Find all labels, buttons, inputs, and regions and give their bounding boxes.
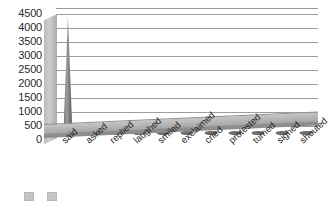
y-axis-tick-label: 0 bbox=[36, 134, 42, 145]
bar-asked[interactable] bbox=[80, 8, 104, 133]
y-axis: 4500 4000 3500 3000 2500 2000 1500 1000 … bbox=[0, 0, 42, 145]
bar-exclaimed[interactable] bbox=[175, 8, 199, 133]
bar-cone bbox=[63, 16, 72, 133]
y-axis-tick-label: 3500 bbox=[18, 36, 42, 47]
y-axis-tick-label: 4000 bbox=[18, 22, 42, 33]
bar-cone-body bbox=[63, 16, 72, 133]
legend-swatch-icon bbox=[24, 192, 34, 201]
y-axis-tick-label: 500 bbox=[24, 120, 42, 131]
y-axis-tick-label: 3000 bbox=[18, 50, 42, 61]
legend-item bbox=[47, 192, 60, 201]
bar-laughed[interactable] bbox=[127, 8, 151, 133]
bar-replied[interactable] bbox=[104, 8, 128, 133]
y-axis-tick-label: 4500 bbox=[18, 8, 42, 19]
y-axis-tick-label: 1000 bbox=[18, 106, 42, 117]
y-axis-tick-label: 2500 bbox=[18, 64, 42, 75]
legend-swatch-icon bbox=[47, 192, 57, 201]
y-axis-tick-label: 1500 bbox=[18, 92, 42, 103]
y-axis-tick-label: 2000 bbox=[18, 78, 42, 89]
plot-area bbox=[44, 8, 318, 139]
x-axis: saidaskedrepliedlaughedsmiledexclaimedcr… bbox=[44, 138, 318, 186]
legend-item bbox=[24, 192, 37, 201]
bar-said[interactable] bbox=[56, 8, 80, 133]
legend bbox=[24, 192, 60, 201]
